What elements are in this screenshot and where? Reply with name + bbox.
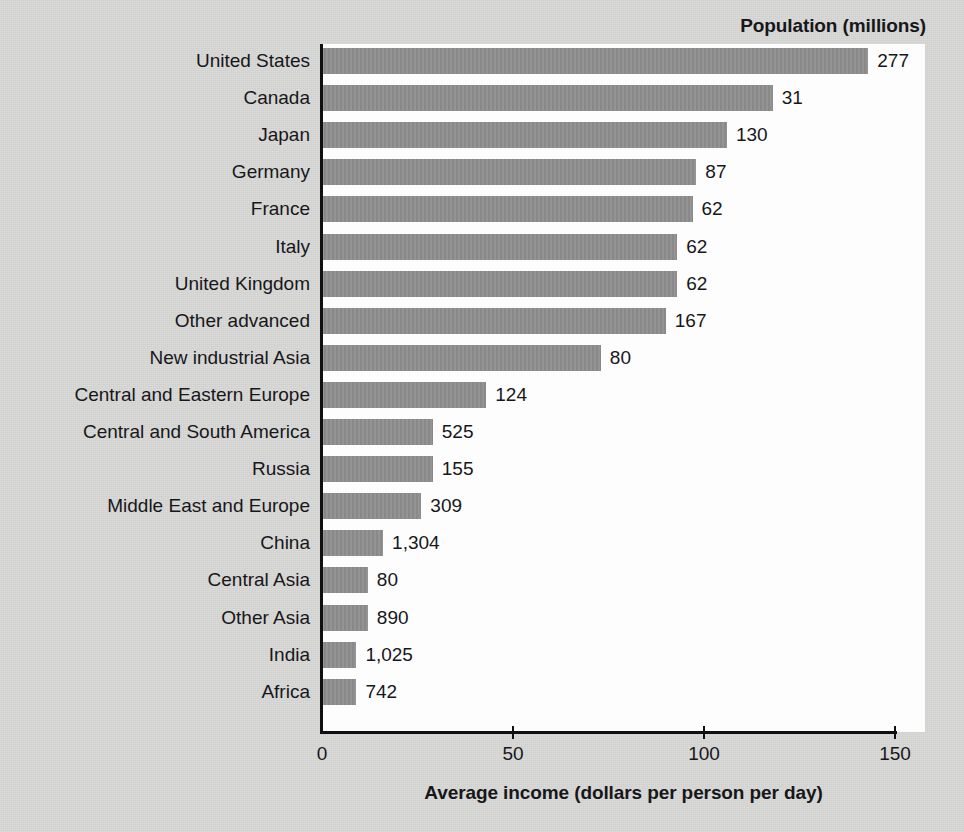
- bar: [322, 642, 356, 668]
- bar-row: France62: [0, 196, 964, 222]
- bar: [322, 122, 727, 148]
- bar-row: Central Asia80: [0, 567, 964, 593]
- bar-value-label: 31: [782, 85, 803, 111]
- bar-value-label: 1,304: [392, 530, 440, 556]
- bar-row: Canada31: [0, 85, 964, 111]
- category-label: Canada: [243, 85, 310, 111]
- bar: [322, 679, 356, 705]
- bar-row: Middle East and Europe309: [0, 493, 964, 519]
- bar-row: Russia155: [0, 456, 964, 482]
- bar-value-label: 62: [686, 234, 707, 260]
- x-tick-label: 50: [502, 743, 523, 765]
- x-tick-label: 0: [317, 743, 328, 765]
- category-label: Middle East and Europe: [107, 493, 310, 519]
- bar-value-label: 742: [365, 679, 397, 705]
- bar-row: New industrial Asia80: [0, 345, 964, 371]
- bar-value-label: 124: [495, 382, 527, 408]
- category-label: China: [260, 530, 310, 556]
- bar: [322, 567, 368, 593]
- bar: [322, 85, 773, 111]
- bar-row: United States277: [0, 48, 964, 74]
- category-label: Other Asia: [221, 605, 310, 631]
- bar-value-label: 167: [675, 308, 707, 334]
- bar: [322, 419, 433, 445]
- bar-value-label: 62: [702, 196, 723, 222]
- category-label: India: [269, 642, 310, 668]
- bar-value-label: 525: [442, 419, 474, 445]
- bar: [322, 456, 433, 482]
- bar-row: Central and South America525: [0, 419, 964, 445]
- category-label: United States: [196, 48, 310, 74]
- bar-value-label: 277: [877, 48, 909, 74]
- x-tick-mark: [894, 726, 896, 739]
- bar-row: Italy62: [0, 234, 964, 260]
- x-tick-label: 150: [879, 743, 911, 765]
- chart-figure: Population (millions) United States277Ca…: [0, 0, 964, 832]
- chart-title: Population (millions): [740, 15, 926, 37]
- category-label: Central Asia: [208, 567, 310, 593]
- category-label: Italy: [275, 234, 310, 260]
- bar-value-label: 309: [430, 493, 462, 519]
- x-axis-title: Average income (dollars per person per d…: [322, 782, 925, 804]
- bar-value-label: 62: [686, 271, 707, 297]
- y-axis-line: [320, 44, 323, 732]
- x-tick-mark: [703, 726, 705, 739]
- bar-row: United Kingdom62: [0, 271, 964, 297]
- bar-value-label: 890: [377, 605, 409, 631]
- bar: [322, 271, 677, 297]
- bar-value-label: 155: [442, 456, 474, 482]
- x-tick-mark: [512, 726, 514, 739]
- bar-value-label: 80: [377, 567, 398, 593]
- bar: [322, 308, 666, 334]
- bar: [322, 159, 696, 185]
- x-tick-label: 100: [688, 743, 720, 765]
- category-label: Africa: [261, 679, 310, 705]
- bar-row: India1,025: [0, 642, 964, 668]
- category-label: Germany: [232, 159, 310, 185]
- category-label: France: [251, 196, 310, 222]
- bar: [322, 530, 383, 556]
- category-label: Central and Eastern Europe: [74, 382, 310, 408]
- category-label: Central and South America: [83, 419, 310, 445]
- bar-row: Germany87: [0, 159, 964, 185]
- bar-row: Japan130: [0, 122, 964, 148]
- bar-value-label: 87: [705, 159, 726, 185]
- bar-value-label: 130: [736, 122, 768, 148]
- bar: [322, 234, 677, 260]
- bar-row: Other Asia890: [0, 605, 964, 631]
- bar-row: Other advanced167: [0, 308, 964, 334]
- category-label: Other advanced: [175, 308, 310, 334]
- bar-value-label: 1,025: [365, 642, 413, 668]
- bar: [322, 345, 601, 371]
- bar: [322, 493, 421, 519]
- category-label: Russia: [252, 456, 310, 482]
- bar: [322, 196, 693, 222]
- category-label: Japan: [258, 122, 310, 148]
- bar: [322, 48, 868, 74]
- bar-value-label: 80: [610, 345, 631, 371]
- bar-row: Central and Eastern Europe124: [0, 382, 964, 408]
- bar: [322, 382, 486, 408]
- bar-row: China1,304: [0, 530, 964, 556]
- bar: [322, 605, 368, 631]
- category-label: New industrial Asia: [149, 345, 310, 371]
- category-label: United Kingdom: [175, 271, 310, 297]
- x-axis-line: [320, 731, 897, 734]
- bar-row: Africa742: [0, 679, 964, 705]
